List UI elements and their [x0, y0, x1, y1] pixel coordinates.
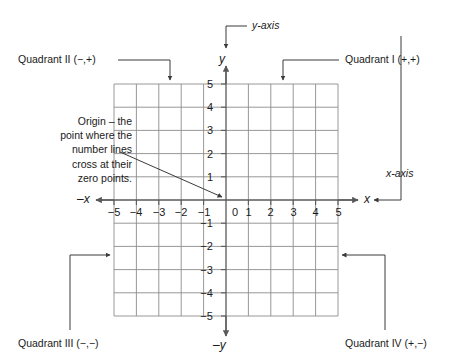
origin-line-1: Origin – the [24, 114, 132, 128]
quadrant-2-leader [118, 60, 170, 80]
quadrant-3-leader [70, 255, 110, 330]
origin-line-5: zero points. [24, 171, 132, 185]
y-tick-pos2: 2 [203, 148, 217, 161]
y-tick-neg5: −5 [196, 310, 217, 323]
x-tick-pos2: 2 [265, 206, 276, 219]
coordinate-plane-diagram: y-axis x-axis y –y x –x Quadrant II (−,+… [0, 0, 455, 361]
x-tick-neg2: −2 [173, 206, 189, 219]
quadrant-2-label: Quadrant II (−,+) [18, 53, 96, 65]
quadrant-1-leader [283, 60, 339, 80]
y-tick-pos1: 1 [203, 171, 217, 184]
x-negative-label: –x [77, 192, 90, 206]
y-tick-neg2: −2 [196, 240, 217, 253]
y-tick-pos5: 5 [203, 78, 217, 91]
origin-annotation: Origin – the point where the number line… [24, 114, 132, 185]
y-positive-label: y [219, 52, 225, 66]
y-tick-pos4: 4 [203, 101, 217, 114]
x-tick-neg4: −4 [128, 206, 144, 219]
x-axis-callout-label: x-axis [386, 167, 413, 179]
x-tick-pos3: 3 [288, 206, 299, 219]
x-tick-pos1: 1 [243, 206, 254, 219]
quadrant-4-leader [342, 255, 385, 330]
quadrant-1-label: Quadrant I (+,+) [345, 53, 420, 65]
y-tick-neg4: −4 [196, 287, 217, 300]
y-axis-leader [226, 26, 247, 48]
origin-line-2: point where the [24, 128, 132, 142]
quadrant-4-label: Quadrant IV (+,−) [345, 337, 427, 349]
x-tick-neg5: −5 [106, 206, 122, 219]
y-tick-neg1: −1 [196, 217, 217, 230]
y-axis-callout-label: y-axis [252, 19, 279, 31]
x-tick-neg3: −3 [151, 206, 167, 219]
y-negative-label: –y [213, 338, 226, 352]
quadrant-3-label: Quadrant III (−,−) [18, 337, 99, 349]
y-tick-pos3: 3 [203, 124, 217, 137]
origin-line-3: number lines [24, 142, 132, 156]
x-positive-label: x [364, 192, 370, 206]
x-tick-zero: 0 [230, 206, 240, 219]
x-tick-pos5: 5 [333, 206, 344, 219]
origin-line-4: cross at their [24, 157, 132, 171]
x-tick-pos4: 4 [310, 206, 321, 219]
y-tick-neg3: −3 [196, 264, 217, 277]
